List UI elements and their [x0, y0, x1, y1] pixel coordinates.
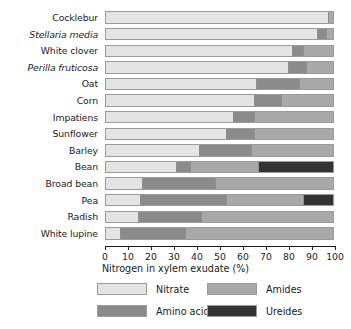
- stacked-bar: [105, 61, 334, 73]
- bar-segment-nitrate: [106, 62, 288, 72]
- chart-row: Bean: [0, 159, 351, 175]
- x-tick: [335, 246, 336, 250]
- legend-swatch: [97, 283, 147, 295]
- bar-segment-nitrate: [106, 145, 199, 155]
- bar-segment-nitrate: [106, 228, 120, 238]
- legend-item-nitrate: Nitrate: [97, 283, 189, 295]
- stacked-bar: [105, 227, 334, 239]
- chart-row: Perilla fruticosa: [0, 60, 351, 76]
- bar-segment-amides: [306, 62, 333, 72]
- row-label: Perilla fruticosa: [0, 60, 98, 76]
- bar-segment-ureides: [258, 162, 333, 172]
- stacked-bar: [105, 78, 334, 90]
- bar-segment-amino-acids: [317, 29, 326, 39]
- bar-segment-amides: [215, 178, 333, 188]
- legend-swatch: [97, 305, 147, 317]
- row-label: Radish: [0, 209, 98, 225]
- stacked-bar: [105, 194, 334, 206]
- x-tick: [243, 246, 244, 250]
- bar-segment-amides: [201, 212, 333, 222]
- bar-segment-amino-acids: [176, 162, 190, 172]
- bar-segment-amides: [281, 95, 333, 105]
- legend-swatch: [207, 305, 257, 317]
- bar-segment-amides: [326, 29, 333, 39]
- row-label: White lupine: [0, 226, 98, 242]
- chart-row: Barley: [0, 143, 351, 159]
- stacked-bar: [105, 111, 334, 123]
- bar-segment-amides: [190, 162, 258, 172]
- bar-segment-amides: [299, 79, 333, 89]
- legend-swatch: [207, 283, 257, 295]
- x-tick-label: 60: [237, 251, 249, 262]
- bar-segment-amides: [303, 46, 333, 56]
- row-label: Bean: [0, 159, 98, 175]
- bar-segment-amino-acids: [199, 145, 251, 155]
- x-tick: [220, 246, 221, 250]
- bar-segment-amino-acids: [233, 112, 253, 122]
- bar-segment-nitrate: [106, 29, 317, 39]
- chart-row: Corn: [0, 93, 351, 109]
- x-tick: [151, 246, 152, 250]
- bar-segment-amides: [254, 129, 333, 139]
- x-tick: [289, 246, 290, 250]
- stacked-bar: [105, 211, 334, 223]
- bar-segment-nitrate: [106, 79, 256, 89]
- bar-segment-amino-acids: [292, 46, 303, 56]
- x-tick: [105, 246, 106, 250]
- x-tick-label: 0: [102, 251, 108, 262]
- x-axis-title: Nitrogen in xylem exudate (%): [0, 263, 351, 274]
- stacked-bar: [105, 45, 334, 57]
- legend-label: Amides: [266, 284, 302, 295]
- row-label: Cocklebur: [0, 10, 98, 26]
- bar-segment-amino-acids: [140, 195, 226, 205]
- bar-segment-amides: [185, 228, 333, 238]
- stacked-bar: [105, 28, 334, 40]
- stacked-bar: [105, 128, 334, 140]
- plot-area: CockleburStellaria mediaWhite cloverPeri…: [0, 10, 351, 242]
- x-tick-label: 30: [168, 251, 180, 262]
- x-tick-label: 90: [306, 251, 318, 262]
- stacked-bar-chart: CockleburStellaria mediaWhite cloverPeri…: [0, 0, 351, 329]
- legend-item-amides: Amides: [207, 283, 302, 295]
- x-tick: [174, 246, 175, 250]
- x-tick-label: 40: [191, 251, 203, 262]
- bar-segment-amino-acids: [254, 95, 281, 105]
- x-tick-label: 10: [122, 251, 134, 262]
- bar-segment-nitrate: [106, 212, 138, 222]
- legend-item-amino-acids: Amino acids: [97, 305, 214, 317]
- bar-segment-amides: [254, 112, 333, 122]
- x-tick: [266, 246, 267, 250]
- row-label: Barley: [0, 143, 98, 159]
- chart-row: White clover: [0, 43, 351, 59]
- chart-row: Radish: [0, 209, 351, 225]
- row-label: Impatiens: [0, 110, 98, 126]
- chart-row: Impatiens: [0, 110, 351, 126]
- bar-segment-amino-acids: [288, 62, 306, 72]
- bar-segment-amides: [251, 145, 333, 155]
- bar-segment-amino-acids: [142, 178, 215, 188]
- legend-label: Ureides: [266, 306, 302, 317]
- chart-row: Cocklebur: [0, 10, 351, 26]
- row-label: Broad bean: [0, 176, 98, 192]
- chart-row: Stellaria media: [0, 27, 351, 43]
- chart-legend: NitrateAmino acidsAmidesUreides: [0, 283, 351, 329]
- x-tick-label: 50: [214, 251, 226, 262]
- row-label: Oat: [0, 76, 98, 92]
- chart-row: Pea: [0, 193, 351, 209]
- stacked-bar: [105, 11, 334, 23]
- bar-segment-amino-acids: [226, 129, 253, 139]
- x-tick-label: 100: [326, 251, 344, 262]
- bar-segment-nitrate: [106, 95, 254, 105]
- x-tick: [312, 246, 313, 250]
- stacked-bar: [105, 161, 334, 173]
- bar-segment-amides: [328, 12, 333, 22]
- chart-row: White lupine: [0, 226, 351, 242]
- legend-label: Nitrate: [156, 284, 189, 295]
- bar-segment-nitrate: [106, 112, 233, 122]
- stacked-bar: [105, 94, 334, 106]
- row-label: Stellaria media: [0, 27, 98, 43]
- row-label: White clover: [0, 43, 98, 59]
- row-label: Pea: [0, 193, 98, 209]
- x-tick-label: 70: [260, 251, 272, 262]
- legend-item-ureides: Ureides: [207, 305, 302, 317]
